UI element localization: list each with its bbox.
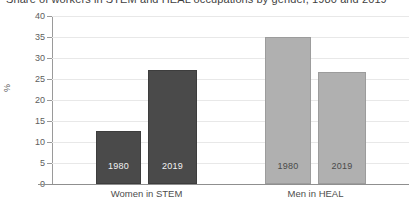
bar: 2019 [318, 72, 366, 184]
y-axis-tick-label: 15 [0, 116, 45, 126]
bar-value-label: 1980 [97, 161, 140, 171]
chart-screenshot: Share of workers in STEM and HEAL occupa… [0, 0, 415, 201]
bar-value-label: 1980 [266, 161, 310, 171]
chart-title: Share of workers in STEM and HEAL occupa… [6, 0, 411, 5]
y-axis-tick-label: 10 [0, 137, 45, 147]
y-axis-tick-label: 30 [0, 53, 45, 63]
y-axis-tick-label: 40 [0, 11, 45, 21]
bar-value-label: 2019 [149, 161, 196, 171]
y-axis-label: % [2, 84, 12, 92]
y-axis-tick-label: 25 [0, 74, 45, 84]
gridline [52, 16, 409, 17]
bar: 1980 [96, 131, 141, 184]
y-axis-tick-label: 20 [0, 95, 45, 105]
bar: 1980 [265, 37, 311, 184]
bar: 2019 [148, 70, 197, 184]
x-axis-category-label: Women in STEM [87, 188, 207, 199]
gridline [52, 37, 409, 38]
x-axis-line [38, 184, 409, 185]
x-axis-category-label: Men in HEAL [256, 188, 376, 199]
gridline [52, 58, 409, 59]
y-axis-tick-label: 35 [0, 32, 45, 42]
plot-area: 1980201919802019 [52, 16, 409, 184]
y-axis-tick-label: 5 [0, 158, 45, 168]
bar-value-label: 2019 [319, 161, 365, 171]
